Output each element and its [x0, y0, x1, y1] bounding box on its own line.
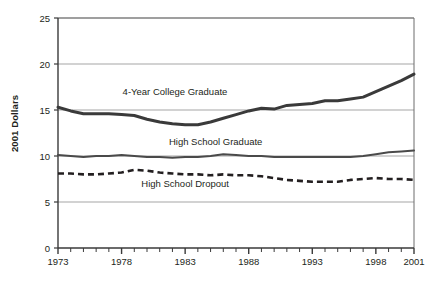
x-tick-label: 1988: [238, 256, 259, 267]
series-line: [58, 170, 414, 182]
y-tick-label: 5: [45, 197, 50, 208]
x-tick-label: 1998: [365, 256, 386, 267]
series-label: High School Graduate: [169, 136, 262, 147]
x-tick-label: 1973: [47, 256, 68, 267]
y-tick-label: 15: [39, 105, 50, 116]
x-axis-ticks: [58, 248, 414, 254]
series-label: 4-Year College Graduate: [123, 86, 228, 97]
x-tick-label: 2001: [403, 256, 424, 267]
y-tick-label: 20: [39, 59, 50, 70]
chart-figure: 2001 Dollars 0510152025 1973197819831988…: [0, 0, 444, 296]
x-tick-label: 1978: [111, 256, 132, 267]
data-series: [58, 74, 414, 182]
y-tick-label: 0: [45, 243, 50, 254]
series-line: [58, 74, 414, 125]
line-chart-plot: 0510152025 1973197819831988199319982001 …: [0, 0, 444, 296]
y-tick-label: 10: [39, 151, 50, 162]
y-tick-label: 25: [39, 13, 50, 24]
series-line: [58, 150, 414, 157]
y-tick-labels: 0510152025: [39, 13, 50, 254]
x-tick-labels: 1973197819831988199319982001: [47, 256, 424, 267]
plot-border: [58, 18, 414, 248]
x-tick-label: 1993: [302, 256, 323, 267]
x-tick-label: 1983: [175, 256, 196, 267]
series-label: High School Dropout: [141, 178, 229, 189]
